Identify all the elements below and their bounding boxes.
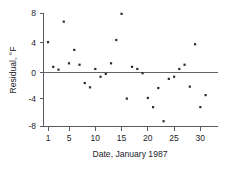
- data-point: [73, 49, 75, 51]
- data-point: [110, 62, 112, 64]
- data-point: [94, 68, 96, 70]
- y-axis-title: Residual, °F: [8, 47, 18, 94]
- data-point: [178, 68, 180, 70]
- x-tick-label-25: 25: [169, 133, 179, 143]
- data-point: [157, 87, 159, 89]
- data-point: [199, 106, 201, 108]
- data-point-group: [47, 13, 207, 123]
- data-point: [120, 13, 122, 15]
- data-point: [173, 76, 175, 78]
- data-point: [115, 39, 117, 41]
- data-point: [126, 98, 128, 100]
- x-axis-ticks: [48, 127, 200, 132]
- y-tick-label-neg4: -4: [28, 94, 36, 104]
- y-tick-label-8: 8: [31, 8, 36, 18]
- data-point: [78, 64, 80, 66]
- data-point: [84, 82, 86, 84]
- x-tick-label-10: 10: [91, 133, 101, 143]
- y-tick-label-neg8: -8: [28, 121, 36, 131]
- data-point: [147, 97, 149, 99]
- x-tick-label-20: 20: [143, 133, 153, 143]
- data-point: [189, 86, 191, 88]
- data-point: [52, 66, 54, 68]
- data-point: [141, 72, 143, 74]
- data-point: [105, 73, 107, 75]
- data-point: [47, 41, 49, 43]
- data-point: [136, 68, 138, 70]
- y-tick-label-0: 0: [31, 68, 36, 78]
- data-point: [162, 120, 164, 122]
- data-point: [152, 106, 154, 108]
- chart-figure: 8 4 0 -4 -8 1 5 10 15 20 25 30 Date, Jan…: [0, 0, 230, 173]
- data-point: [57, 69, 59, 71]
- data-point: [131, 66, 133, 68]
- x-tick-label-1: 1: [46, 133, 51, 143]
- y-tick-label-4: 4: [31, 38, 36, 48]
- y-axis-ticks: [40, 13, 44, 126]
- data-point: [68, 62, 70, 64]
- data-point: [168, 78, 170, 80]
- data-point: [194, 43, 196, 45]
- data-point: [63, 21, 65, 23]
- data-point: [183, 64, 185, 66]
- data-point: [89, 86, 91, 88]
- x-tick-label-5: 5: [67, 133, 72, 143]
- data-point: [204, 94, 206, 96]
- x-axis-title: Date, January 1987: [92, 149, 167, 159]
- scatter-plot: 8 4 0 -4 -8 1 5 10 15 20 25 30 Date, Jan…: [0, 0, 230, 173]
- data-point: [99, 76, 101, 78]
- x-tick-label-15: 15: [117, 133, 127, 143]
- x-tick-label-30: 30: [196, 133, 206, 143]
